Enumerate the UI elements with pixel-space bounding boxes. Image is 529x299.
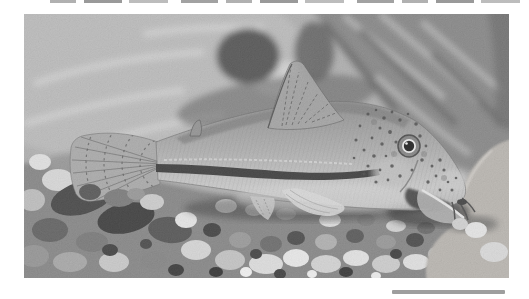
scale-bar [392, 290, 505, 294]
fish-photo [24, 14, 509, 278]
page [0, 0, 529, 299]
film-grain-overlay [24, 14, 509, 278]
cropped-image-edge-top [50, 0, 529, 3]
